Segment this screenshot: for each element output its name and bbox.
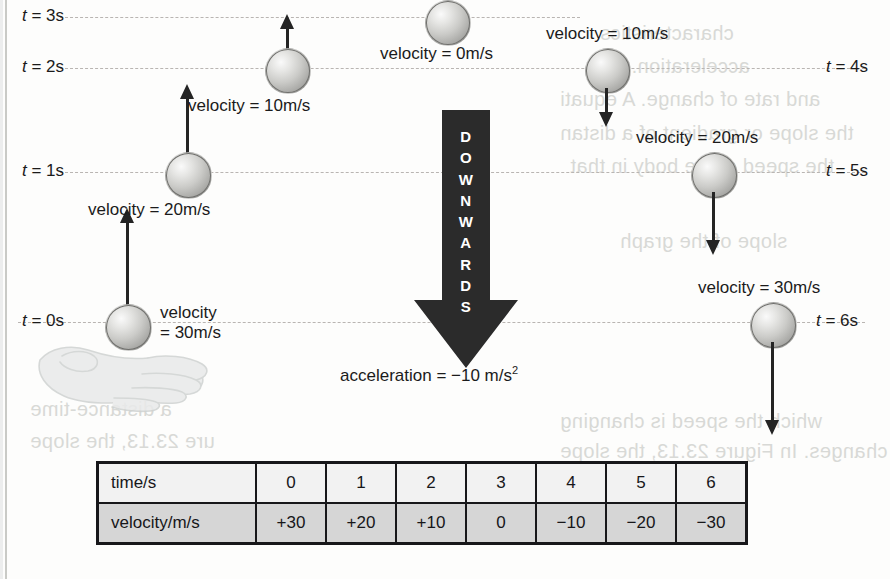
velocity-arrow-head-t6 bbox=[765, 420, 779, 435]
downwards-letter: W bbox=[414, 211, 518, 232]
time-label-t6: t = 6s bbox=[816, 311, 858, 331]
time-line-t3 bbox=[60, 17, 580, 18]
table-cell-time: 3 bbox=[466, 463, 536, 504]
table-cell-velocity: 0 bbox=[466, 503, 536, 544]
page-edge-inner bbox=[5, 0, 7, 579]
downwards-letter: R bbox=[414, 254, 518, 275]
ball-t2 bbox=[265, 48, 311, 94]
downwards-letter: W bbox=[414, 169, 518, 190]
ghost-text: which the speed is changing bbox=[560, 410, 822, 433]
time-label-t5: t = 5s bbox=[826, 161, 868, 181]
acceleration-label-text: acceleration = −10 m/s bbox=[340, 366, 512, 385]
time-label-t0: t = 0s bbox=[22, 311, 64, 331]
time-label-t4: t = 4s bbox=[826, 57, 868, 77]
time-label-t3: t = 3s bbox=[22, 6, 64, 26]
ghost-text: ure 23.13, the slope bbox=[30, 430, 215, 453]
velocity-arrow-head-t5 bbox=[706, 240, 720, 255]
table-cell-velocity: −10 bbox=[536, 503, 606, 544]
table-rowheader-velocity: velocity/m/s bbox=[98, 503, 257, 544]
downwards-letter: A bbox=[414, 232, 518, 253]
hand-illustration bbox=[36, 330, 216, 416]
table-cell-time: 5 bbox=[606, 463, 676, 504]
downwards-letter: D bbox=[414, 126, 518, 147]
downwards-letter: S bbox=[414, 296, 518, 317]
time-line-t2 bbox=[60, 68, 865, 69]
table-cell-time: 6 bbox=[676, 463, 747, 504]
velocity-label-t1: velocity = 20m/s bbox=[88, 200, 210, 220]
velocity-label-t3: velocity = 0m/s bbox=[380, 44, 493, 64]
table-cell-time: 2 bbox=[396, 463, 466, 504]
velocity-arrow-head-t2 bbox=[280, 14, 294, 29]
downwards-arrow-label: D O W N W A R D S bbox=[414, 126, 518, 318]
table-cell-velocity: +20 bbox=[326, 503, 396, 544]
downwards-arrow: D O W N W A R D S bbox=[414, 110, 518, 368]
table-cell-velocity: +10 bbox=[396, 503, 466, 544]
velocity-label-t2: velocity = 10m/s bbox=[188, 96, 310, 116]
acceleration-label: acceleration = −10 m/s2 bbox=[340, 364, 518, 386]
acceleration-label-exponent: 2 bbox=[512, 364, 518, 376]
velocity-arrow-shaft-t0 bbox=[126, 222, 129, 314]
time-label-t1: t = 1s bbox=[22, 161, 64, 181]
ghost-text: slope of the graph bbox=[620, 230, 787, 253]
velocity-label-t6: velocity = 30m/s bbox=[698, 278, 820, 298]
velocity-label-t5: velocity = 20m/s bbox=[636, 128, 758, 148]
table-rowheader-time: time/s bbox=[98, 463, 257, 504]
velocity-arrow-shaft-t6 bbox=[771, 342, 774, 428]
velocity-label-t0-line1: velocity bbox=[160, 303, 221, 323]
table-row-velocity: velocity/m/s +30 +20 +10 0 −10 −20 −30 bbox=[98, 503, 747, 544]
table-cell-time: 4 bbox=[536, 463, 606, 504]
velocity-label-t4: velocity = 10m/s bbox=[546, 24, 668, 44]
velocity-arrow-head-t4 bbox=[599, 112, 613, 127]
physics-diagram-figure: characteristics acceleration. The and ra… bbox=[0, 0, 890, 579]
table-cell-velocity: −20 bbox=[606, 503, 676, 544]
downwards-letter: N bbox=[414, 190, 518, 211]
table-cell-time: 1 bbox=[326, 463, 396, 504]
downwards-letter: O bbox=[414, 147, 518, 168]
ball-t4 bbox=[585, 48, 631, 94]
velocity-time-table: time/s 0 1 2 3 4 5 6 velocity/m/s +30 +2… bbox=[96, 461, 748, 545]
table-cell-velocity: −30 bbox=[676, 503, 747, 544]
table-cell-velocity: +30 bbox=[256, 503, 326, 544]
ball-t3 bbox=[425, 0, 471, 46]
ghost-text: changes. In Figure 23.13, the slope bbox=[560, 440, 888, 463]
ball-t1 bbox=[165, 152, 212, 199]
page-edge-outer bbox=[0, 0, 3, 579]
time-label-t2: t = 2s bbox=[22, 57, 64, 77]
table-row-time: time/s 0 1 2 3 4 5 6 bbox=[98, 463, 747, 504]
downwards-letter: D bbox=[414, 275, 518, 296]
table-cell-time: 0 bbox=[256, 463, 326, 504]
